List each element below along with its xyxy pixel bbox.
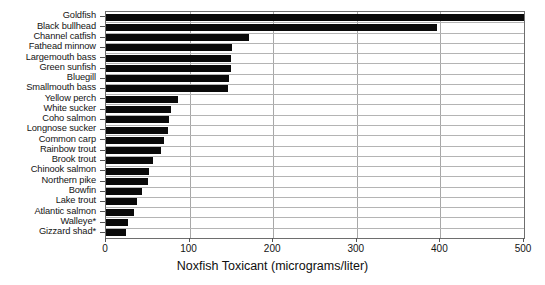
category-axis-labels: GoldfishBlack bullheadChannel catfishFat… bbox=[0, 11, 100, 237]
bar-row bbox=[106, 12, 524, 22]
bar bbox=[106, 157, 153, 164]
bar bbox=[106, 219, 128, 226]
bar-series bbox=[106, 12, 524, 238]
x-axis-tick-label: 200 bbox=[264, 243, 281, 254]
bar bbox=[106, 24, 437, 31]
category-label: Coho salmon bbox=[0, 114, 100, 124]
category-label: Lake trout bbox=[0, 196, 100, 206]
category-label: Walleye* bbox=[0, 216, 100, 226]
x-axis-tick-label: 100 bbox=[180, 243, 197, 254]
category-label: Bluegill bbox=[0, 73, 100, 83]
bar bbox=[106, 127, 168, 134]
bar-row bbox=[106, 63, 524, 73]
category-label: Longnose sucker bbox=[0, 124, 100, 134]
x-axis-tick-label: 400 bbox=[431, 243, 448, 254]
category-label: Chinook salmon bbox=[0, 165, 100, 175]
category-label: Bowfin bbox=[0, 186, 100, 196]
category-label: Northern pike bbox=[0, 175, 100, 185]
x-axis-tick-label: 300 bbox=[347, 243, 364, 254]
bar-row bbox=[106, 104, 524, 114]
bar-row bbox=[106, 166, 524, 176]
category-label: Black bullhead bbox=[0, 21, 100, 31]
bar-row bbox=[106, 217, 524, 227]
category-label: Rainbow trout bbox=[0, 144, 100, 154]
category-label: Goldfish bbox=[0, 11, 100, 21]
horizontal-bar-chart: GoldfishBlack bullheadChannel catfishFat… bbox=[0, 0, 545, 285]
category-label: Channel catfish bbox=[0, 32, 100, 42]
bar-row bbox=[106, 33, 524, 43]
bar-row bbox=[106, 197, 524, 207]
bar-row bbox=[106, 53, 524, 63]
category-label: Smallmouth bass bbox=[0, 83, 100, 93]
category-label: Largemouth bass bbox=[0, 52, 100, 62]
bar-row bbox=[106, 228, 524, 238]
bar bbox=[106, 85, 228, 92]
bar bbox=[106, 229, 126, 236]
bar-row bbox=[106, 145, 524, 155]
bar bbox=[106, 188, 142, 195]
bar bbox=[106, 178, 148, 185]
bar bbox=[106, 14, 524, 21]
bar-row bbox=[106, 74, 524, 84]
bar-row bbox=[106, 22, 524, 32]
plot-area bbox=[105, 11, 525, 239]
bar-row bbox=[106, 156, 524, 166]
bar bbox=[106, 65, 231, 72]
category-label: Common carp bbox=[0, 134, 100, 144]
bar bbox=[106, 96, 178, 103]
bar-row bbox=[106, 43, 524, 53]
bar bbox=[106, 55, 231, 62]
bar bbox=[106, 116, 169, 123]
bar bbox=[106, 147, 161, 154]
bar bbox=[106, 34, 249, 41]
bar-row bbox=[106, 135, 524, 145]
x-axis-tick-label: 0 bbox=[102, 243, 108, 254]
bar-row bbox=[106, 187, 524, 197]
x-axis-tick bbox=[439, 238, 440, 242]
x-axis-tick bbox=[105, 238, 106, 242]
bar bbox=[106, 168, 149, 175]
category-label: Atlantic salmon bbox=[0, 206, 100, 216]
bar-row bbox=[106, 84, 524, 94]
bar-row bbox=[106, 94, 524, 104]
x-axis-tick bbox=[356, 238, 357, 242]
x-axis-title: Noxfish Toxicant (micrograms/liter) bbox=[0, 259, 545, 273]
category-label: Brook trout bbox=[0, 155, 100, 165]
category-label: Green sunfish bbox=[0, 62, 100, 72]
bar-row bbox=[106, 125, 524, 135]
x-axis-tick bbox=[523, 238, 524, 242]
category-label: White sucker bbox=[0, 103, 100, 113]
bar bbox=[106, 106, 171, 113]
x-axis-tick bbox=[272, 238, 273, 242]
bar bbox=[106, 209, 134, 216]
bar-row bbox=[106, 176, 524, 186]
category-label: Fathead minnow bbox=[0, 42, 100, 52]
bar-row bbox=[106, 115, 524, 125]
bar bbox=[106, 137, 164, 144]
bar bbox=[106, 198, 137, 205]
category-label: Yellow perch bbox=[0, 93, 100, 103]
bar bbox=[106, 44, 232, 51]
x-axis-tick bbox=[189, 238, 190, 242]
category-label: Gizzard shad* bbox=[0, 227, 100, 237]
bar bbox=[106, 75, 229, 82]
x-axis-tick-label: 500 bbox=[515, 243, 532, 254]
bar-row bbox=[106, 207, 524, 217]
